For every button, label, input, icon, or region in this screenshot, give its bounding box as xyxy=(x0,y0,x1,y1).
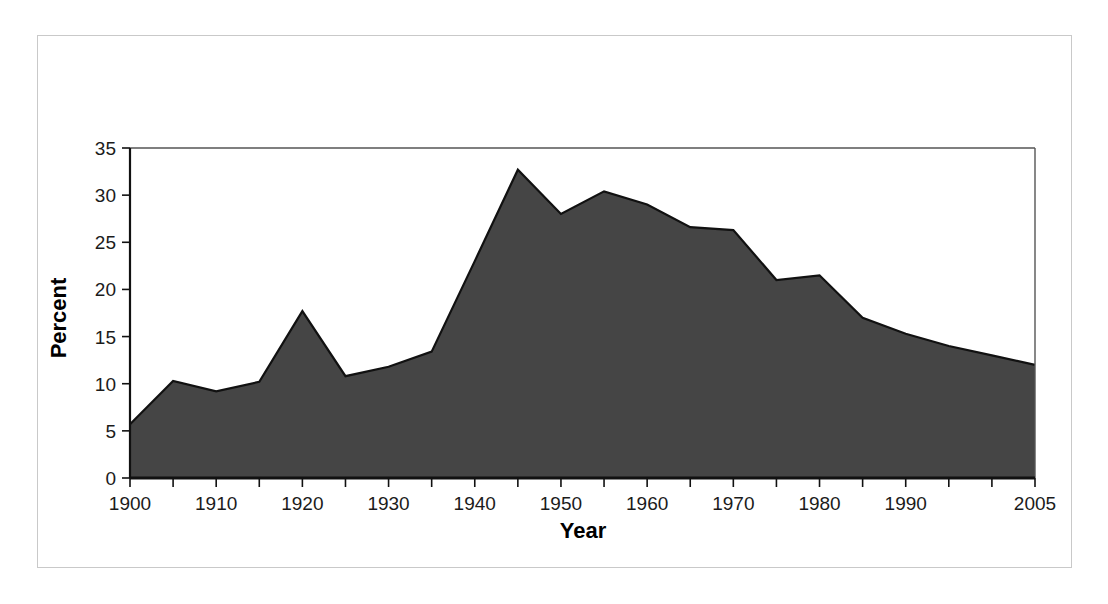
x-tick-label: 1960 xyxy=(626,493,668,514)
x-tick-label: 2005 xyxy=(1014,493,1056,514)
x-axis-tick-labels: 1900191019201930194019501960197019801990… xyxy=(109,493,1056,514)
y-tick-label: 30 xyxy=(95,185,116,206)
y-tick-label: 25 xyxy=(95,232,116,253)
y-tick-label: 0 xyxy=(105,468,116,489)
x-tick-label: 1950 xyxy=(540,493,582,514)
x-tick-label: 1920 xyxy=(281,493,323,514)
x-tick-label: 1980 xyxy=(798,493,840,514)
y-axis-tick-labels: 05101520253035 xyxy=(95,138,116,489)
y-tick-label: 15 xyxy=(95,327,116,348)
area-chart: 05101520253035 1900191019201930194019501… xyxy=(0,0,1108,604)
y-tick-label: 35 xyxy=(95,138,116,159)
x-tick-label: 1930 xyxy=(367,493,409,514)
x-tick-label: 1940 xyxy=(454,493,496,514)
chart-canvas: 05101520253035 1900191019201930194019501… xyxy=(0,0,1108,604)
x-tick-label: 1900 xyxy=(109,493,151,514)
x-axis-title: Year xyxy=(560,518,607,543)
x-tick-label: 1990 xyxy=(885,493,927,514)
y-tick-label: 5 xyxy=(105,421,116,442)
chart-figure: 05101520253035 1900191019201930194019501… xyxy=(0,0,1108,604)
x-tick-label: 1910 xyxy=(195,493,237,514)
y-axis-title: Percent xyxy=(46,277,71,358)
y-tick-label: 10 xyxy=(95,374,116,395)
y-axis-ticks xyxy=(122,148,130,478)
y-tick-label: 20 xyxy=(95,279,116,300)
x-tick-label: 1970 xyxy=(712,493,754,514)
